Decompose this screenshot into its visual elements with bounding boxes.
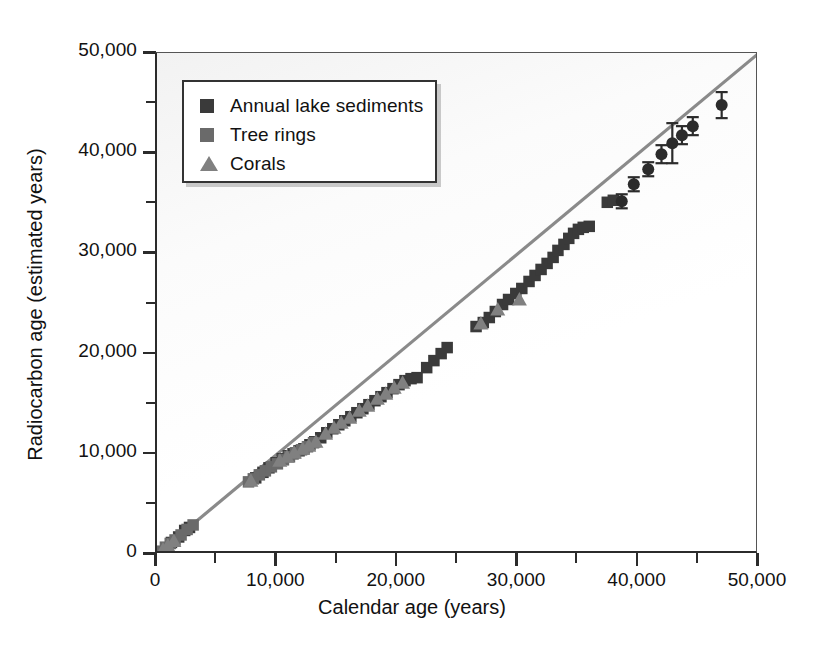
data-point-square [411,372,423,384]
x-tick-major [154,553,157,566]
x-tick-label: 10,000 [215,569,335,591]
legend-item: Annual lake sediments [200,91,435,120]
x-tick-label: 30,000 [456,569,576,591]
x-tick-minor [214,553,216,563]
data-point-circle [616,195,628,207]
legend-item: Corals [200,149,435,178]
y-tick-label: 0 [0,540,137,562]
chart-legend: Annual lake sedimentsTree ringsCorals [182,80,437,183]
x-tick-major [756,553,759,566]
y-tick-label: 30,000 [0,239,137,261]
legend-item: Tree rings [200,120,435,149]
x-tick-minor [455,553,457,563]
data-point-square [187,519,199,531]
data-point-square [441,342,453,354]
data-series-layer [157,195,619,553]
data-point-circle [687,120,699,132]
y-tick-label: 40,000 [0,139,137,161]
x-tick-major [515,553,518,566]
legend-label: Corals [230,153,286,175]
error-bar-layer [616,92,728,208]
legend-label: Annual lake sediments [230,95,423,117]
x-axis-title: Calendar age (years) [0,596,824,619]
series-0 [166,195,619,549]
x-tick-label: 50,000 [697,569,817,591]
data-point-circle [628,178,640,190]
data-point-circle [655,148,667,160]
y-tick-label: 20,000 [0,340,137,362]
x-tick-minor [335,553,337,563]
x-tick-minor [696,553,698,563]
x-tick-minor [575,553,577,563]
square-marker-icon [200,128,214,142]
triangle-marker-icon [200,156,218,171]
x-tick-label: 20,000 [336,569,456,591]
y-tick-label: 50,000 [0,39,137,61]
data-point-square [583,221,595,233]
x-tick-major [274,553,277,566]
x-tick-label: 40,000 [577,569,697,591]
data-point-circle [676,129,688,141]
x-tick-major [636,553,639,566]
legend-marker [200,156,226,171]
legend-marker [200,128,226,142]
data-point-circle [642,163,654,175]
y-axis-title: Radiocarbon age (estimated years) [24,65,47,545]
data-point-circle [716,99,728,111]
square-marker-icon [200,99,214,113]
x-tick-label: 0 [95,569,215,591]
legend-label: Tree rings [230,124,316,146]
x-tick-major [395,553,398,566]
legend-marker [200,99,226,113]
chart-figure: Radiocarbon age (estimated years) Calend… [0,0,824,651]
y-tick-label: 10,000 [0,440,137,462]
